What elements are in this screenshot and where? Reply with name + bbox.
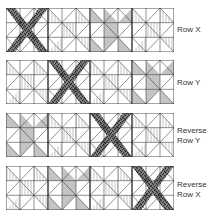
row-label-line1: Reverse xyxy=(177,126,207,136)
quilt-row-x xyxy=(6,8,174,52)
row-label-line1: Reverse xyxy=(177,180,207,190)
row-label-line1: Row Y xyxy=(177,78,200,88)
row-label-line2: Row Y xyxy=(177,136,207,146)
quilt-row-y-graphic xyxy=(6,60,174,104)
row-reverse-y-label: Reverse Row Y xyxy=(177,126,207,146)
quilt-row-reverse-y xyxy=(6,113,174,157)
quilt-row-x-graphic xyxy=(6,8,174,52)
row-label-line2: Row X xyxy=(177,190,207,200)
row-y-label: Row Y xyxy=(177,78,200,88)
row-x-label: Row X xyxy=(177,25,201,35)
quilt-row-y xyxy=(6,60,174,104)
quilt-row-reverse-x-graphic xyxy=(6,166,174,210)
row-reverse-x-label: Reverse Row X xyxy=(177,180,207,200)
quilt-row-reverse-y-graphic xyxy=(6,113,174,157)
quilt-row-reverse-x xyxy=(6,166,174,210)
row-label-line1: Row X xyxy=(177,25,201,35)
